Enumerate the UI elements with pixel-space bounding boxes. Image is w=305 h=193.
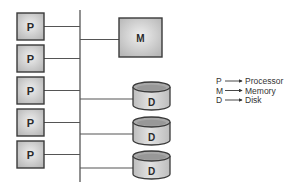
processor-label: P: [27, 53, 34, 65]
legend-item: DDisk: [216, 95, 262, 105]
disk-label: D: [148, 132, 155, 143]
disk-label: D: [148, 97, 155, 108]
processor-label: P: [27, 85, 34, 97]
legend-meaning: Memory: [245, 86, 276, 96]
legend-symbol: M: [216, 86, 223, 96]
processor-node: P: [17, 45, 44, 72]
processors-group: PPPPP: [17, 13, 80, 168]
legend-item: MMemory: [216, 86, 276, 96]
processor-label: P: [27, 117, 34, 129]
memory-group: M: [80, 18, 162, 57]
disk-node: D: [133, 117, 170, 145]
legend: PProcessorMMemoryDDisk: [216, 76, 283, 105]
processor-node: P: [17, 77, 44, 104]
processor-node: P: [17, 141, 44, 168]
disk-top-shade: [137, 154, 166, 160]
shared-bus-diagram: PPPPP M DDD PProcessorMMemoryDDisk: [0, 0, 305, 193]
disks-group: DDD: [80, 82, 170, 179]
disk-label: D: [148, 166, 155, 177]
disk-top-shade: [137, 120, 166, 126]
legend-meaning: Processor: [245, 76, 283, 86]
disk-top-shade: [137, 85, 166, 91]
legend-item: PProcessor: [216, 76, 283, 86]
processor-node: P: [17, 13, 44, 40]
disk-node: D: [133, 151, 170, 179]
legend-symbol: P: [216, 76, 222, 86]
legend-symbol: D: [216, 95, 222, 105]
processor-label: P: [27, 149, 34, 161]
memory-label: M: [136, 33, 144, 44]
processor-label: P: [27, 21, 34, 33]
legend-meaning: Disk: [245, 95, 262, 105]
processor-node: P: [17, 109, 44, 136]
disk-node: D: [133, 82, 170, 110]
